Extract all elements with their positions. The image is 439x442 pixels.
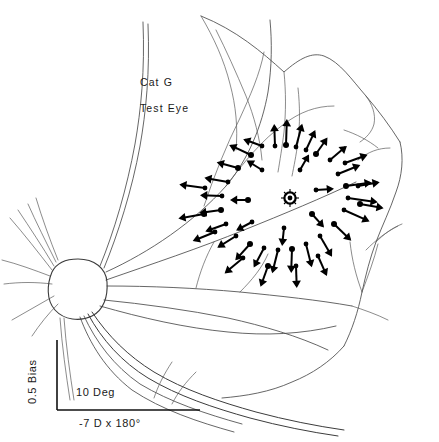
vector-origin-dot	[234, 234, 239, 239]
vector-origin-dot	[226, 180, 231, 185]
vessel-tree-group	[2, 16, 402, 436]
vector-arrow	[178, 211, 207, 222]
vector-arrow	[314, 185, 334, 194]
vector-origin-dot	[309, 211, 315, 217]
vector-arrow	[313, 138, 328, 157]
vector-arrowhead	[376, 203, 384, 212]
retina-outer-edge-right	[344, 142, 402, 346]
vessel-inferior-temporal-2	[104, 300, 328, 350]
vessel-inferior-spur-b	[64, 318, 74, 400]
retina-outer-edge-bottom	[222, 346, 344, 398]
vessel-upper-fork-d	[292, 88, 300, 176]
vector-arrow	[298, 154, 310, 172]
vector-origin-dot	[304, 148, 309, 153]
vector-arrow	[270, 124, 279, 148]
vector-origin-dot	[314, 188, 319, 193]
vector-arrowhead	[306, 259, 315, 267]
optic-disc-outline	[48, 259, 107, 319]
vessel-superior-temporal-branch	[226, 106, 334, 186]
vector-arrow	[225, 256, 246, 274]
vector-arrow	[253, 246, 266, 268]
vessel-superior-temporal-branch-2	[204, 52, 264, 206]
vector-arrowhead	[292, 281, 301, 288]
vector-arrowhead	[200, 191, 207, 200]
vector-arrow	[200, 191, 224, 200]
vector-arrowhead	[370, 197, 378, 206]
vessel-superior-main-a	[104, 24, 149, 268]
vessel-inferior-temporal	[100, 306, 336, 334]
vessel-nasal-d	[36, 198, 58, 260]
vector-origin-dot	[346, 196, 351, 201]
vector-origin-dot	[203, 186, 208, 191]
vector-origin-dot	[247, 241, 253, 247]
subject-label: Cat G	[140, 76, 173, 88]
vessel-upper-fork-b	[216, 30, 262, 160]
vector-origin-dot	[250, 220, 255, 225]
vector-origin-dot	[265, 263, 271, 269]
retinal-vector-figure: Cat G Test Eye 10 Deg -7 D x 180° 0.5 Bi…	[0, 0, 439, 442]
vector-origin-dot	[262, 246, 267, 251]
vector-arrow	[193, 230, 218, 243]
vector-arrow	[279, 226, 288, 246]
vector-arrow	[357, 201, 384, 211]
vessel-nasal-e	[4, 283, 52, 285]
vector-origin-dot	[331, 221, 337, 227]
vector-arrowhead	[279, 238, 288, 246]
vertical-scale-label: 0.5 Bias	[26, 359, 38, 404]
vector-origin-dot	[224, 222, 229, 227]
vector-origin-dot	[218, 207, 224, 213]
vessel-raphe-branch-b	[196, 242, 214, 288]
vector-origin-dot	[235, 165, 241, 171]
optic-disc-group	[48, 259, 107, 319]
vector-origin-dot	[248, 152, 254, 158]
vector-arrowhead	[178, 213, 186, 222]
vector-arrow	[204, 175, 230, 185]
area-centralis-marker	[281, 189, 299, 207]
vector-arrow	[328, 146, 347, 163]
vector-origin-dot	[245, 197, 251, 203]
vessel-nasal-a	[10, 218, 52, 270]
vessel-inferior-bundle-1	[92, 312, 344, 430]
vessel-peripheral-branch-d	[352, 306, 388, 320]
vector-origin-dot	[357, 201, 363, 207]
vector-origin-dot	[282, 226, 287, 231]
vector-arrow	[247, 161, 265, 173]
vector-arrow	[259, 263, 271, 287]
vector-origin-dot	[283, 142, 289, 148]
vector-origin-dot	[294, 145, 299, 150]
vessel-horizontal-raphe	[107, 286, 352, 306]
vector-origin-dot	[220, 194, 225, 199]
vector-arrow	[217, 234, 238, 248]
retina-notch-upper-right	[360, 96, 375, 142]
vector-arrowhead	[230, 196, 237, 205]
figure-canvas	[0, 0, 439, 442]
vector-arrow	[304, 242, 315, 268]
vector-origin-dot	[294, 264, 299, 269]
vector-arrowhead	[270, 124, 279, 131]
horizontal-scale-label: 10 Deg	[76, 386, 115, 398]
vector-origin-dot	[213, 230, 218, 235]
vector-arrowhead	[296, 124, 305, 132]
vector-arrowhead	[204, 175, 212, 184]
eye-label: Test Eye	[140, 102, 189, 114]
vector-arrow	[179, 181, 207, 190]
vector-origin-dot	[260, 144, 265, 149]
vector-origin-dot	[328, 158, 333, 163]
vector-arrow	[343, 153, 368, 165]
vector-arrow	[316, 254, 328, 277]
vessel-superior-main-b	[100, 22, 144, 266]
vector-arrow	[342, 208, 370, 223]
vector-origin-dot	[304, 242, 309, 247]
vector-arrow	[270, 248, 281, 274]
vector-arrow	[309, 211, 324, 227]
vessel-nasal-f	[12, 296, 54, 320]
vessel-peripheral-branch-c	[366, 226, 398, 250]
vector-origin-dot	[342, 208, 347, 213]
vector-arrow	[318, 234, 333, 257]
vector-origin-dot	[260, 168, 265, 173]
vessel-peripheral-branch-g	[344, 130, 378, 148]
vessel-nasal-b	[18, 210, 54, 266]
vessel-nasal-c	[28, 204, 56, 262]
vector-arrow	[336, 164, 361, 177]
vector-arrow	[243, 138, 264, 149]
